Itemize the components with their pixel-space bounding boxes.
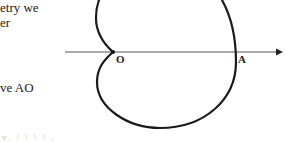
label-o: O [116,53,125,65]
cardioid-figure [0,0,286,142]
axis-arrow-icon [276,49,283,56]
label-a: A [238,53,246,65]
origin-point [111,50,115,54]
